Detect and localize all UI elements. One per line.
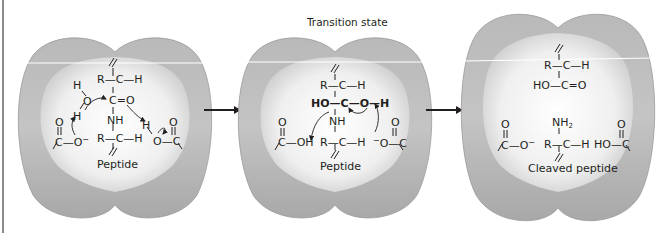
panel-substrate: R—C—H H O C=O H NH O O H C—O− R—C—H O—C … xyxy=(5,0,235,233)
p2-right-carboxylate: −O—C xyxy=(373,137,407,149)
p1-right-acid: O—C xyxy=(153,136,180,147)
p3-acid: HO—C=O xyxy=(533,80,587,91)
p1-carbonyl: C=O xyxy=(109,95,135,106)
p3-left-carboxylate: C—O− xyxy=(501,139,535,151)
p2-left-carbonyl-o: O xyxy=(278,117,287,128)
p3-top-bond: R—C—H xyxy=(544,60,590,71)
p1-left-carboxylate: C—O− xyxy=(55,136,89,148)
p3-right-acid: HO—C xyxy=(594,139,630,150)
p1-peptide-label: Peptide xyxy=(97,158,138,171)
p3-right-carbonyl-o: O xyxy=(617,119,626,130)
p3-amine: NH2 xyxy=(552,117,573,130)
p2-peptide-label: Peptide xyxy=(320,160,361,173)
p1-top-bond: R—C—H xyxy=(97,74,143,85)
p3-left-carbonyl-o: O xyxy=(501,119,510,130)
p1-water-h-bottom: H xyxy=(73,111,81,122)
p1-bottom-bond: R—C—H xyxy=(97,133,143,144)
p2-right-carbonyl-o: O xyxy=(391,117,400,128)
p2-bottom-bond: R—C—H xyxy=(320,137,366,148)
p2-top-bond: R—C—H xyxy=(320,80,366,91)
p2-tetrahedral-intermediate: HO—C—O—H xyxy=(311,98,389,109)
p2-left-acid: C—OH xyxy=(278,137,314,148)
figure-frame-line xyxy=(2,0,4,233)
p1-left-carbonyl-o: O xyxy=(55,117,64,128)
p2-amide: NH xyxy=(329,116,346,127)
p3-bottom-bond: R—C—H xyxy=(544,139,590,150)
panel-transition-state: Transition state R—C—H HO—C—O—H O NH O C… xyxy=(225,0,455,233)
p1-water-h-top: H xyxy=(73,80,81,91)
p1-water-o: O xyxy=(83,96,92,107)
p3-cleaved-peptide-label: Cleaved peptide xyxy=(528,162,618,175)
p1-right-carbonyl-o: O xyxy=(169,117,178,128)
p1-amide: NH xyxy=(107,115,124,126)
panel-cleaved-products: R—C—H HO—C=O O NH2 O C—O− R—C—H HO—C Cle… xyxy=(448,0,668,233)
p1-right-acid-h: H xyxy=(142,120,150,131)
